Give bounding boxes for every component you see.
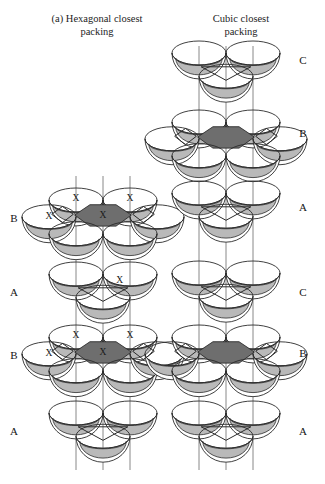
guide-lines-group <box>76 46 253 470</box>
x-mark-top: X <box>116 275 123 285</box>
x-mark-upper-right: X <box>127 330 134 340</box>
layer-label-cubic-closest-packing-3: C <box>296 287 310 298</box>
x-mark-upper-left: X <box>73 193 80 203</box>
layer-label-hexagonal-closest-packing-3: A <box>7 426 21 437</box>
layer-label-cubic-closest-packing-2: A <box>296 202 310 213</box>
layer-label-hexagonal-closest-packing-1: A <box>7 287 21 298</box>
x-mark-upper-right: X <box>127 193 134 203</box>
closest-packing-figure: (a) Hexagonal closest packing Cubic clos… <box>0 0 325 484</box>
x-mark-upper-left: X <box>73 330 80 340</box>
sphere-clusters-group <box>22 41 307 462</box>
x-mark-center: X <box>100 210 107 220</box>
x-mark-left: X <box>46 348 53 358</box>
x-mark-center: X <box>100 347 107 357</box>
layer-label-cubic-closest-packing-4: B <box>296 348 310 359</box>
layer-label-cubic-closest-packing-1: B <box>296 128 310 139</box>
packing-diagram-canvas: XXXXXXXXX <box>0 0 325 484</box>
layer-label-cubic-closest-packing-5: A <box>296 426 310 437</box>
layer-label-cubic-closest-packing-0: C <box>296 55 310 66</box>
layer-label-hexagonal-closest-packing-2: B <box>7 350 21 361</box>
x-mark-left: X <box>46 211 53 221</box>
layer-label-hexagonal-closest-packing-0: B <box>7 213 21 224</box>
